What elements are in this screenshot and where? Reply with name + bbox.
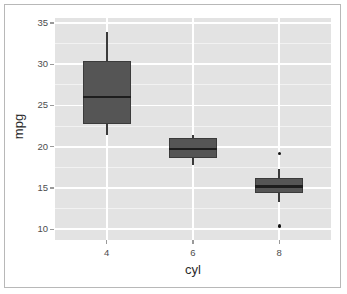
box-median-line (255, 185, 303, 187)
y-axis-tick-mark (50, 22, 54, 23)
box-upper-whisker (278, 169, 280, 178)
box-lower-whisker (106, 124, 108, 136)
y-axis-tick-mark (50, 105, 54, 106)
y-axis-tick-mark (50, 146, 54, 147)
y-axis-tick-label: 25 (37, 100, 48, 110)
plot-panel (55, 18, 331, 240)
x-axis-tick-label: 4 (87, 247, 127, 258)
outlier-point (278, 152, 281, 155)
outlier-point (278, 224, 281, 227)
y-axis-tick-label: 15 (37, 183, 48, 193)
x-axis-tick-label: 8 (259, 247, 299, 258)
gridline-major-vertical (192, 18, 194, 240)
gridline-major-vertical (278, 18, 280, 240)
y-axis-tick-label: 20 (37, 142, 48, 152)
y-axis-title: mpg (11, 97, 26, 157)
x-axis-tick-mark (279, 240, 280, 244)
box-upper-whisker (106, 32, 108, 61)
x-axis-tick-mark (106, 240, 107, 244)
x-axis-title: cyl (55, 262, 331, 277)
y-axis-tick-mark (50, 187, 54, 188)
box-median-line (169, 148, 217, 150)
box-lower-whisker (278, 193, 280, 202)
y-axis-tick-mark (50, 64, 54, 65)
box-lower-whisker (192, 158, 194, 165)
y-axis-tick-label: 30 (37, 59, 48, 69)
x-axis-tick-label: 6 (173, 247, 213, 258)
chart-root: 101520253035 mpg cyl 468 (0, 0, 347, 294)
box-rect (83, 61, 131, 124)
y-axis-tick-label: 10 (37, 224, 48, 234)
x-axis-tick-mark (192, 240, 193, 244)
y-axis-tick-label: 35 (37, 18, 48, 28)
y-axis-tick-mark (50, 229, 54, 230)
box-median-line (83, 96, 131, 98)
